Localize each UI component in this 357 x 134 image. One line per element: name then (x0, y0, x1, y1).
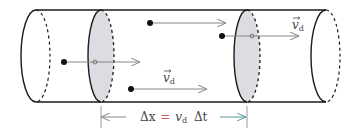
cross-section-right (234, 10, 260, 102)
charge-dot (128, 86, 134, 92)
charge-4 (128, 86, 207, 92)
svg-text:vd: vd (163, 71, 175, 86)
charge-dot (219, 33, 225, 39)
charge-dot (147, 20, 153, 26)
charge-2 (147, 20, 226, 26)
velocity-label-top: vd (292, 17, 304, 34)
velocity-label-mid: vd (163, 70, 175, 87)
displacement-equation: Δx = vd Δt (140, 110, 208, 126)
dimension-marker: Δx = vd Δt (101, 106, 247, 128)
charge-dot (61, 59, 67, 65)
conductor-diagram: vd vd Δx = vd Δt (0, 0, 357, 134)
cross-section-left (88, 10, 114, 102)
svg-text:vd: vd (292, 18, 304, 33)
